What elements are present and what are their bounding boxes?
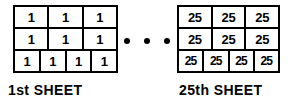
cell-value: 1 xyxy=(96,33,103,46)
cell-value: 1 xyxy=(49,55,56,68)
cell-value: 25 xyxy=(260,55,272,67)
sheet-cell: 25 xyxy=(211,7,245,27)
sheet-cell: 1 xyxy=(15,51,39,71)
sheet-cell: 25 xyxy=(211,29,245,49)
sheet-cell: 1 xyxy=(82,29,116,49)
caption-first-sheet: 1st SHEET xyxy=(8,81,82,99)
dot-icon xyxy=(144,38,150,44)
sheet-first: 1 1 1 1 1 1 1 1 1 1 xyxy=(13,5,118,73)
continuation-dots-icon xyxy=(124,34,170,48)
sheet-cell: 25 xyxy=(202,51,227,71)
dot-icon xyxy=(124,38,130,44)
cell-value: 25 xyxy=(188,33,202,46)
sheet-cell: 1 xyxy=(82,7,116,27)
sheet-twenty-fifth: 25 25 25 25 25 25 25 25 25 25 xyxy=(177,5,280,73)
sheet-cell: 1 xyxy=(15,29,47,49)
sheet-row: 25 25 25 25 xyxy=(179,49,278,71)
sheet-sequence-figure: 1 1 1 1 1 1 1 1 1 1 25 25 25 25 25 xyxy=(0,0,293,103)
sheet-cell: 1 xyxy=(39,51,65,71)
sheet-cell: 1 xyxy=(65,51,91,71)
sheet-cell: 25 xyxy=(253,51,278,71)
cell-value: 1 xyxy=(96,11,103,24)
cell-value: 25 xyxy=(255,11,269,24)
cell-value: 25 xyxy=(222,33,236,46)
sheet-cell: 1 xyxy=(47,7,81,27)
cell-value: 25 xyxy=(235,55,247,67)
cell-value: 25 xyxy=(188,11,202,24)
sheet-row: 1 1 1 xyxy=(15,7,116,27)
sheet-cell: 25 xyxy=(179,51,202,71)
cell-value: 25 xyxy=(255,33,269,46)
cell-value: 1 xyxy=(62,33,69,46)
sheet-cell: 25 xyxy=(179,7,211,27)
sheet-cell: 25 xyxy=(244,29,278,49)
cell-value: 1 xyxy=(28,33,35,46)
sheet-cell: 25 xyxy=(228,51,253,71)
sheet-row: 1 1 1 xyxy=(15,27,116,49)
cell-value: 25 xyxy=(222,11,236,24)
cell-value: 25 xyxy=(210,55,222,67)
cell-value: 1 xyxy=(75,55,82,68)
sheet-row: 1 1 1 1 xyxy=(15,49,116,71)
cell-value: 1 xyxy=(62,11,69,24)
sheet-cell: 1 xyxy=(15,7,47,27)
sheet-row: 25 25 25 xyxy=(179,7,278,27)
sheet-cell: 1 xyxy=(90,51,116,71)
cell-value: 1 xyxy=(101,55,108,68)
caption-twenty-fifth-sheet: 25th SHEET xyxy=(179,81,262,99)
cell-value: 1 xyxy=(23,55,30,68)
sheet-cell: 25 xyxy=(244,7,278,27)
cell-value: 1 xyxy=(28,11,35,24)
cell-value: 25 xyxy=(185,55,197,67)
sheet-cell: 1 xyxy=(47,29,81,49)
sheet-row: 25 25 25 xyxy=(179,27,278,49)
sheet-cell: 25 xyxy=(179,29,211,49)
dot-icon xyxy=(164,38,170,44)
